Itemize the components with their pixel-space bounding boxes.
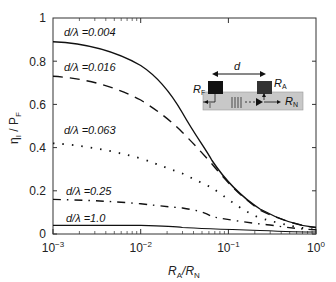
chart: 0 0.2 0.4 0.6 0.8 1 10−3 10−2 10−1 100 R… <box>0 0 336 282</box>
ra-label: RA <box>274 77 287 90</box>
detector-block <box>257 81 272 94</box>
y-tick-labels: 0 0.2 0.4 0.6 0.8 1 <box>29 11 46 241</box>
arrow-left-icon <box>212 71 218 77</box>
distance-label: d <box>234 60 241 72</box>
curve-labels: d/λ =0.004 d/λ =0.016 d/λ =0.063 d/λ =0.… <box>64 26 116 224</box>
y-tick-0.2: 0.2 <box>29 184 46 198</box>
y-tick-0.6: 0.6 <box>29 98 46 112</box>
inset-schematic: d RF RA RN <box>193 60 303 110</box>
rf-label: RF <box>193 83 205 96</box>
label-d-lambda-0.016: d/λ =0.016 <box>64 61 116 73</box>
label-d-lambda-0.25: d/λ =0.25 <box>66 185 112 197</box>
x-tick-1e-2: 10−2 <box>129 240 152 255</box>
label-d-lambda-0.063: d/λ =0.063 <box>64 124 116 136</box>
y-axis-label: ηI / PF <box>7 112 23 144</box>
x-axis-label: RA/RN <box>168 264 200 280</box>
x-tick-1e-3: 10−3 <box>42 240 65 255</box>
y-tick-0.8: 0.8 <box>29 55 46 69</box>
x-tick-1e0: 100 <box>307 240 325 255</box>
y-tick-0.4: 0.4 <box>29 141 46 155</box>
arrow-right-icon <box>260 71 266 77</box>
label-d-lambda-0.004: d/λ =0.004 <box>64 26 116 38</box>
injector-block <box>208 81 223 94</box>
x-tick-labels: 10−3 10−2 10−1 100 <box>42 240 326 255</box>
label-d-lambda-1.0: d/λ =1.0 <box>66 212 106 224</box>
curve-d-lambda-1.0 <box>53 225 316 232</box>
x-tick-1e-1: 10−1 <box>217 240 240 255</box>
y-tick-0: 0 <box>39 227 46 241</box>
y-tick-1: 1 <box>39 11 46 25</box>
